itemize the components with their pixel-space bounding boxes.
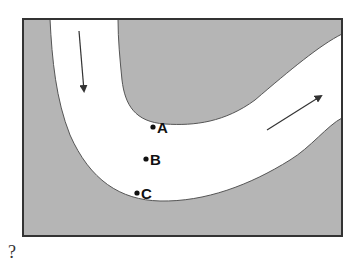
point-a-label: A bbox=[157, 119, 168, 136]
point-c-label: C bbox=[141, 185, 152, 202]
point-b-dot bbox=[143, 156, 148, 161]
point-c-dot bbox=[134, 190, 139, 195]
point-b-label: B bbox=[150, 151, 161, 168]
question-mark: ? bbox=[8, 242, 16, 262]
river-bend-diagram: A B C ? bbox=[0, 0, 362, 262]
point-a-dot bbox=[150, 124, 155, 129]
